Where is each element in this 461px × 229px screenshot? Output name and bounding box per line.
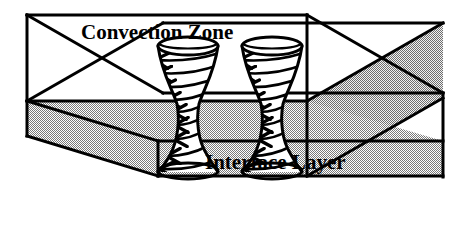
diagram-root: Convection Zone Interface Layer	[0, 0, 461, 229]
convection-zone-diagram: Convection Zone Interface Layer	[0, 0, 461, 229]
label-interface-layer: Interface Layer	[205, 150, 346, 174]
label-convection-zone: Convection Zone	[81, 20, 233, 44]
